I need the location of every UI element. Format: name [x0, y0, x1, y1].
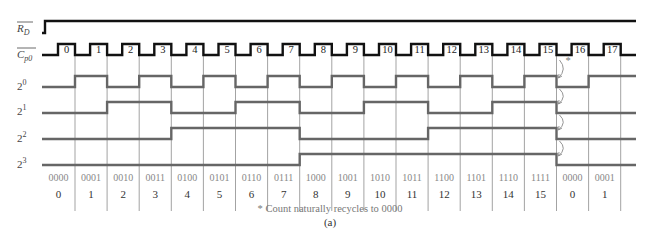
state-binary: 1001	[338, 172, 358, 183]
timing-diagram: RDCp02021222301234567891011121314151617*…	[0, 0, 652, 243]
pulse-number: 10	[382, 44, 393, 55]
waveform-q2	[42, 128, 636, 139]
state-decimal: 2	[120, 188, 126, 200]
pulse-number: 0	[64, 44, 69, 55]
pulse-number: 11	[415, 44, 425, 55]
state-decimal: 13	[471, 188, 483, 200]
state-decimal: 1	[88, 188, 94, 200]
waveform-q3	[42, 154, 636, 165]
pulse-number: 17	[607, 44, 618, 55]
state-binary: 1100	[434, 172, 454, 183]
rd-waveform	[42, 21, 636, 33]
signal-label-q2: 22	[17, 130, 27, 144]
state-binary: 0000	[563, 172, 583, 183]
state-decimal: 10	[374, 188, 386, 200]
waveform-q1	[42, 102, 636, 113]
signal-label-q3: 23	[17, 156, 27, 170]
state-binary: 0010	[113, 172, 133, 183]
footnote: * Count naturally recycles to 0000	[258, 203, 403, 214]
pulse-number: 3	[160, 44, 165, 55]
state-decimal: 0	[570, 188, 576, 200]
state-decimal: 7	[281, 188, 287, 200]
state-decimal: 14	[503, 188, 515, 200]
pulse-number: 4	[192, 44, 198, 55]
pulse-number: 9	[353, 44, 358, 55]
state-binary: 1111	[531, 172, 550, 183]
pulse-number: 6	[256, 44, 261, 55]
state-decimal: 15	[535, 188, 547, 200]
state-binary: 0100	[177, 172, 197, 183]
svg-text:RD: RD	[16, 22, 30, 37]
state-decimal: 9	[345, 188, 351, 200]
pulse-number: 13	[479, 44, 490, 55]
state-binary: 0001	[81, 172, 101, 183]
state-binary: 1101	[466, 172, 486, 183]
pulse-number: 7	[289, 44, 294, 55]
ripple-arrows	[559, 60, 564, 156]
pulse-number: 14	[511, 44, 522, 55]
svg-text:22: 22	[17, 130, 27, 144]
state-decimal: 0	[56, 188, 62, 200]
pulse-number: 16	[575, 44, 586, 55]
signal-label-q1: 21	[17, 103, 27, 117]
state-decimal: 12	[439, 188, 450, 200]
signal-label-rd: RD	[16, 22, 33, 37]
svg-text:23: 23	[17, 156, 27, 170]
pulse-number: 5	[224, 44, 229, 55]
svg-text:20: 20	[17, 78, 27, 92]
state-binary: 0000	[49, 172, 69, 183]
state-binary: 1000	[306, 172, 326, 183]
state-binary: 1011	[402, 172, 422, 183]
state-decimal: 3	[153, 188, 159, 200]
pulse-number: 2	[128, 44, 133, 55]
state-binary: 0001	[595, 172, 615, 183]
state-decimal: 5	[217, 188, 223, 200]
state-binary: 0110	[242, 172, 262, 183]
recycle-marker: *	[566, 55, 571, 66]
svg-text:21: 21	[17, 103, 27, 117]
pulse-number: 12	[446, 44, 457, 55]
pulse-number: 1	[96, 44, 101, 55]
waveform-q0	[42, 76, 636, 87]
signal-label-cp0: Cp0	[17, 48, 36, 63]
state-decimal: 4	[185, 188, 191, 200]
state-binary: 1110	[499, 172, 518, 183]
state-decimal: 8	[313, 188, 319, 200]
figure-caption: (a)	[324, 216, 337, 229]
state-decimal: 6	[249, 188, 255, 200]
signal-label-q0: 20	[17, 78, 27, 92]
pulse-number: 8	[321, 44, 326, 55]
state-binary: 0111	[274, 172, 293, 183]
state-decimal: 11	[407, 188, 418, 200]
svg-text:Cp0: Cp0	[17, 48, 32, 63]
state-binary: 0101	[209, 172, 229, 183]
state-decimal: 1	[602, 188, 608, 200]
state-binary: 1010	[370, 172, 390, 183]
state-binary: 0011	[145, 172, 165, 183]
pulse-number: 15	[543, 44, 554, 55]
